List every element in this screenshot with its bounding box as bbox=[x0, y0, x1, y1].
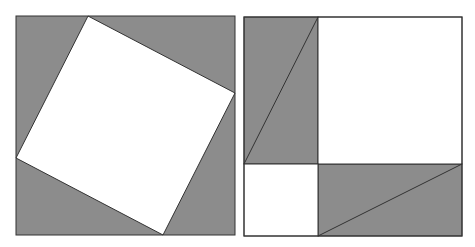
left-figure bbox=[16, 16, 235, 235]
large-leg-square bbox=[318, 17, 462, 164]
small-leg-square bbox=[244, 164, 318, 236]
right-figure bbox=[244, 17, 462, 236]
pythagorean-diagram bbox=[0, 0, 475, 247]
